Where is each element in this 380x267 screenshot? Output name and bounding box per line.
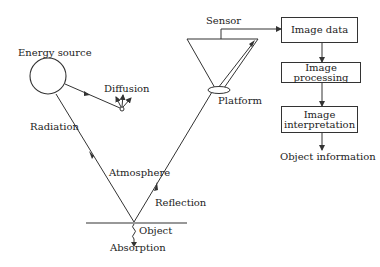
- sensor-inner-arrow: [249, 40, 255, 47]
- object-label: Object: [139, 225, 172, 236]
- sensor-connector: [221, 29, 281, 39]
- object-information-label: Object information: [280, 151, 376, 162]
- image-data-label: Image data: [291, 25, 348, 35]
- atmosphere-label: Atmosphere: [109, 167, 170, 178]
- image-processing-label: Image processing: [282, 63, 360, 83]
- radiation-label: Radiation: [30, 121, 79, 132]
- sensor-right-side: [224, 39, 258, 88]
- platform-label: Platform: [218, 95, 262, 106]
- image-interpretation-box: Image interpretation: [281, 106, 358, 133]
- absorption-wave: [133, 224, 136, 243]
- sensor-left-side: [187, 39, 215, 88]
- diffusion-ray-arrow: [84, 91, 90, 96]
- absorption-label: Absorption: [110, 242, 166, 253]
- image-processing-box: Image processing: [281, 62, 361, 83]
- diffusion-point: [120, 107, 124, 111]
- image-interpretation-label: Image interpretation: [284, 110, 355, 130]
- sensor-label: Sensor: [206, 15, 241, 26]
- radiation-ray: [56, 94, 134, 222]
- platform-ellipse: [208, 87, 230, 94]
- energy-source-label: Energy source: [18, 47, 92, 58]
- diffusion-label: Diffusion: [104, 83, 150, 94]
- diffusion-arrows-icon: [116, 95, 131, 107]
- reflection-label: Reflection: [155, 197, 206, 208]
- energy-source-circle: [30, 58, 66, 94]
- image-data-box: Image data: [281, 17, 358, 43]
- sensor-inner-ray: [218, 43, 253, 88]
